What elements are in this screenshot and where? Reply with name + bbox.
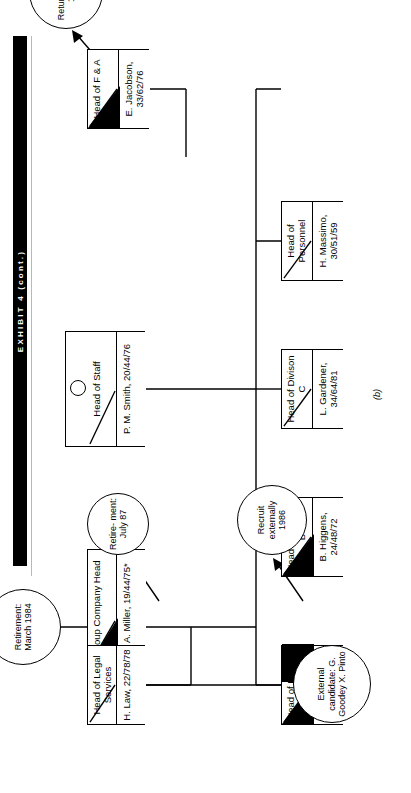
node-person: H. Law, 22/78/78 [117,646,146,724]
node-head-of-staff[interactable]: Head of Staff P. M. Smith, 20/44/76 [87,331,145,447]
node-person: E. Jacobson, 33/62/76 [119,50,150,128]
node-person: H. Massimo, 30/51/59 [313,202,344,280]
annotation-text: Returns to US 1982 [55,0,76,28]
org-chart: Group Company Head J. A. Miller, 19/44/7… [0,0,411,793]
annotation-text: Recruit externally 1986 [256,486,288,554]
node-title: Head of Personnel [282,202,313,280]
node-head-of-division-c[interactable]: Head of Divison C L. Gardener, 34/64/81 [281,349,343,429]
annotation-external-candidate: External candidate: G. Goodey X. Pinto [293,645,371,723]
node-head-of-personnel[interactable]: Head of Personnel H. Massimo, 30/51/59 [281,201,343,281]
annotation-text: External candidate: G. Goodey X. Pinto [316,646,348,722]
figure-caption: (b) [372,389,382,400]
annotation-text: Retire- ment: July 87 [107,494,128,554]
node-person: P. M. Smith, 20/44/76 [117,332,146,446]
node-title: Head of F & A [88,50,119,128]
annotation-recruit-externally-1986: Recruit externally 1986 [237,485,307,555]
circle-marker-icon [70,380,86,396]
node-title: Head of Legal Services [88,646,117,724]
annotation-text: Retirement: March 1984 [12,590,33,664]
node-person: L. Gardener, 34/64/81 [313,350,344,428]
node-person: B. Higgens, 24/48/72 [313,498,344,576]
node-head-of-legal-services[interactable]: Head of Legal Services H. Law, 22/78/78 [87,645,145,725]
head-of-staff-marker-bar [65,331,88,447]
org-chart-rotated-canvas: Group Company Head J. A. Miller, 19/44/7… [41,17,371,777]
node-head-of-f-and-a[interactable]: Head of F & A E. Jacobson, 33/62/76 [87,49,149,129]
node-title: Head of Divison C [282,350,313,428]
annotation-retirement-july-87: Retire- ment: July 87 [87,493,149,555]
node-title: Head of Staff [88,332,117,446]
